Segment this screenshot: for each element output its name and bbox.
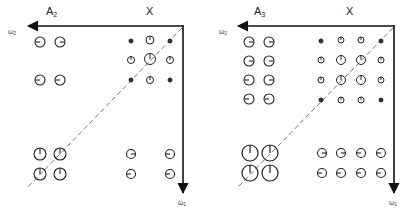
circle-vertical-icon xyxy=(358,37,364,43)
circle-horizontal-icon xyxy=(337,169,346,178)
dot-icon xyxy=(319,98,323,102)
dot-icon xyxy=(379,98,383,102)
block-a-label-right: A3 xyxy=(254,6,265,19)
circle-vertical-icon xyxy=(337,56,346,65)
dot-icon xyxy=(129,39,133,43)
circle-horizontal-icon xyxy=(35,37,45,47)
circle-horizontal-icon xyxy=(264,37,274,47)
circle-horizontal-icon xyxy=(357,149,366,158)
circle-vertical-icon xyxy=(147,77,154,84)
circle-vertical-icon xyxy=(318,77,324,83)
circle-vertical-icon xyxy=(378,77,384,83)
diagram-canvas xyxy=(0,0,404,211)
right-panel xyxy=(237,25,394,193)
circle-vertical-icon xyxy=(262,165,278,181)
circle-vertical-icon xyxy=(54,148,66,160)
dot-icon xyxy=(129,78,133,82)
x-bottom-block-left xyxy=(127,150,175,179)
circle-horizontal-icon xyxy=(55,37,65,47)
dot-icon xyxy=(168,39,172,43)
circle-horizontal-icon xyxy=(318,149,327,158)
circle-vertical-icon xyxy=(337,76,346,85)
circle-horizontal-icon xyxy=(35,75,45,85)
circle-horizontal-icon xyxy=(377,149,386,158)
circle-horizontal-icon xyxy=(244,37,254,47)
x-bottom-block-right xyxy=(318,149,386,178)
circle-vertical-icon xyxy=(318,57,324,63)
circle-vertical-icon xyxy=(262,145,278,161)
circle-horizontal-icon xyxy=(337,149,346,158)
circle-vertical-icon xyxy=(34,168,46,180)
circle-vertical-icon xyxy=(357,76,366,85)
circle-horizontal-icon xyxy=(166,150,175,159)
circle-vertical-icon xyxy=(34,148,46,160)
dot-icon xyxy=(168,78,172,82)
circle-vertical-icon xyxy=(167,57,174,64)
circle-vertical-icon xyxy=(242,165,258,181)
circle-vertical-icon xyxy=(357,56,366,65)
block-a-label-left: A2 xyxy=(46,6,57,19)
circle-horizontal-icon xyxy=(264,75,274,85)
circle-horizontal-icon xyxy=(244,56,254,66)
omega2-label-right: ω2 xyxy=(219,28,227,37)
a3-top-block xyxy=(244,37,274,104)
circle-vertical-icon xyxy=(242,145,258,161)
circle-horizontal-icon xyxy=(55,75,65,85)
block-x-label-right: X xyxy=(346,6,353,17)
circle-horizontal-icon xyxy=(318,169,327,178)
circle-vertical-icon xyxy=(128,57,135,64)
circle-vertical-icon xyxy=(338,97,344,103)
circle-horizontal-icon xyxy=(264,94,274,104)
x-top-block-left xyxy=(128,36,174,84)
block-x-label-left: X xyxy=(146,6,153,17)
circle-vertical-icon xyxy=(358,97,364,103)
diagonal-dashed-left xyxy=(27,28,182,188)
circle-vertical-icon xyxy=(54,168,66,180)
circle-vertical-icon xyxy=(378,57,384,63)
circle-horizontal-icon xyxy=(244,75,254,85)
circle-vertical-icon xyxy=(146,36,154,44)
circle-horizontal-icon xyxy=(377,169,386,178)
diagonal-dashed-right xyxy=(237,28,393,188)
a3-bottom-block xyxy=(242,145,278,181)
omega2-label-left: ω2 xyxy=(8,28,16,37)
left-panel xyxy=(27,25,183,193)
a2-top-block xyxy=(35,37,65,85)
dot-icon xyxy=(319,39,323,43)
a2-bottom-block xyxy=(34,148,66,180)
circle-horizontal-icon xyxy=(166,170,175,179)
circle-horizontal-icon xyxy=(264,56,274,66)
circle-vertical-icon xyxy=(338,37,344,43)
circle-horizontal-icon xyxy=(127,170,136,179)
circle-horizontal-icon xyxy=(357,169,366,178)
circle-horizontal-icon xyxy=(244,94,254,104)
omega1-label-right: ω1 xyxy=(389,199,397,208)
dot-icon xyxy=(379,39,383,43)
circle-vertical-icon xyxy=(145,54,156,65)
circle-horizontal-icon xyxy=(127,150,136,159)
omega1-label-left: ω1 xyxy=(178,199,186,208)
